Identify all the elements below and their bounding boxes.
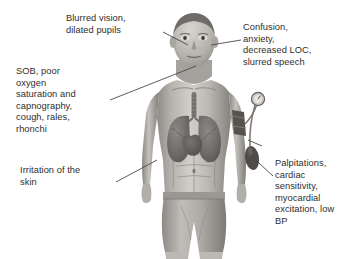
pressure-gauge xyxy=(251,92,264,105)
thighs xyxy=(165,252,223,259)
label-blurred-vision: Blurred vision, dilated pupils xyxy=(66,13,162,36)
arm-right-of-viewer-left xyxy=(142,92,160,203)
label-skin-irritation: Irritation of the skin xyxy=(20,165,114,188)
waistband xyxy=(163,192,225,199)
label-cardiac-symptoms: Palpitations, cardiac sensitivity, myoca… xyxy=(275,158,355,228)
label-respiratory-symptoms: SOB, poor oxygen saturation and capnogra… xyxy=(16,66,108,136)
shorts xyxy=(162,192,226,252)
illustration-canvas: Blurred vision, dilated pupils SOB, poor… xyxy=(0,0,357,259)
blood-pressure-cuff xyxy=(232,110,246,136)
navel xyxy=(192,169,195,173)
head xyxy=(170,13,219,68)
pupil-right xyxy=(201,36,205,40)
arm-left-of-viewer-right xyxy=(229,92,247,203)
label-neurologic-symptoms: Confusion, anxiety, decreased LOC, slurr… xyxy=(243,22,347,68)
hand-right xyxy=(237,184,247,203)
sphygmomanometer xyxy=(243,92,264,170)
hand-left xyxy=(142,184,152,203)
pupil-left xyxy=(183,36,187,40)
trachea xyxy=(192,92,197,118)
